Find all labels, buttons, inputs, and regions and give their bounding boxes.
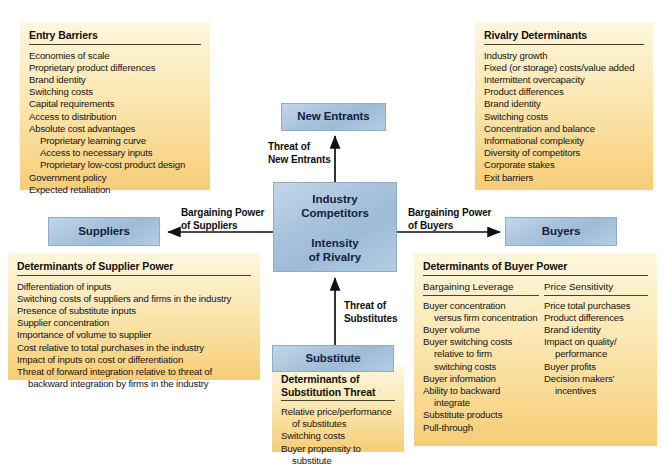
list-item: Substitute products	[423, 409, 544, 421]
panel-supplier-power: Determinants of Supplier Power Different…	[8, 253, 260, 380]
list-item: Brand identity	[29, 74, 201, 86]
force-box-new-entrants[interactable]: New Entrants	[281, 103, 386, 131]
list-item: Corporate stakes	[484, 159, 644, 171]
bargaining-buyers-line1: Bargaining Power	[408, 207, 491, 220]
list-item: Informational complexity	[484, 135, 644, 147]
force-box-suppliers[interactable]: Suppliers	[48, 217, 160, 246]
list-item: Government policy	[29, 172, 201, 184]
list-item: Proprietary low-cost product design	[29, 159, 201, 171]
force-box-industry-competitors[interactable]: Industry Competitors Intensity of Rivalr…	[273, 182, 397, 272]
list-item: Buyer profits	[544, 361, 648, 373]
threat-new-entrants-line2: New Entrants	[268, 154, 331, 167]
list-item: Supplier concentration	[17, 317, 251, 329]
list-item: Impact of inputs on cost or differentiat…	[17, 354, 251, 366]
label-bargaining-power-of-buyers: Bargaining Power of Buyers	[408, 207, 491, 232]
list-item: Product differences	[484, 86, 644, 98]
entry-barriers-title: Entry Barriers	[29, 29, 201, 42]
list-item: Importance of volume to supplier	[17, 329, 251, 341]
supplier-power-rule	[17, 275, 251, 276]
list-item: switching costs	[423, 361, 544, 373]
buyer-power-column-price-sensitivity: Price Sensitivity Price total purchases …	[544, 281, 648, 434]
label-threat-of-new-entrants: Threat of New Entrants	[268, 141, 331, 166]
panel-buyer-power: Determinants of Buyer Power Bargaining L…	[414, 253, 657, 446]
list-item: backward integration by firms in the ind…	[17, 378, 251, 390]
substitution-threat-title-line2: Substitution Threat	[281, 386, 395, 399]
list-item: substitute	[281, 455, 395, 467]
list-item: Fixed (or storage) costs/value added	[484, 62, 644, 74]
list-item: Brand identity	[484, 98, 644, 110]
list-item: Exit barriers	[484, 172, 644, 184]
list-item: Switching costs	[484, 111, 644, 123]
suppliers-label: Suppliers	[78, 225, 130, 239]
column-rule	[544, 295, 648, 296]
list-item: Intermittent overcapacity	[484, 74, 644, 86]
list-item: Decision makers'	[544, 373, 648, 385]
column-heading: Price Sensitivity	[544, 281, 648, 293]
list-item: Access to necessary inputs	[29, 147, 201, 159]
threat-substitutes-line2: Substitutes	[344, 313, 397, 326]
substitute-label: Substitute	[305, 352, 360, 366]
list-item: Pull-through	[423, 422, 544, 434]
list-item: Industry growth	[484, 50, 644, 62]
buyer-power-title: Determinants of Buyer Power	[423, 260, 648, 273]
list-item: Buyer concentration	[423, 300, 544, 312]
threat-substitutes-line1: Threat of	[344, 300, 397, 313]
bargaining-suppliers-line1: Bargaining Power	[181, 207, 264, 220]
list-item: Proprietary product differences	[29, 62, 201, 74]
rivalry-determinants-list: Industry growth Fixed (or storage) costs…	[484, 50, 644, 184]
list-item: Expected retaliation	[29, 184, 201, 196]
panel-substitution-threat: Determinants of Substitution Threat Rela…	[272, 366, 404, 452]
substitution-threat-list: Relative price/performance of substitute…	[281, 406, 395, 467]
list-item: Absolute cost advantages	[29, 123, 201, 135]
list-item: Diversity of competitors	[484, 147, 644, 159]
list-item: Buyer propensity to	[281, 443, 395, 455]
list-item: Economies of scale	[29, 50, 201, 62]
label-threat-of-substitutes: Threat of Substitutes	[344, 300, 397, 325]
rivalry-determinants-rule	[484, 44, 644, 45]
list-item: Capital requirements	[29, 98, 201, 110]
list-item: versus firm concentration	[423, 312, 544, 324]
list-item: of substitutes	[281, 418, 395, 430]
industry-competitors-line1: Industry	[274, 192, 396, 206]
list-item: Buyer switching costs	[423, 336, 544, 348]
list-item: Price total purchases	[544, 300, 648, 312]
list-item: Impact on quality/	[544, 336, 648, 348]
diagram-canvas: Entry Barriers Economies of scale Propri…	[0, 0, 663, 475]
bargaining-leverage-list: Buyer concentration versus firm concentr…	[423, 300, 544, 434]
list-item: incentives	[544, 385, 648, 397]
buyers-label: Buyers	[542, 225, 580, 239]
list-item: Concentration and balance	[484, 123, 644, 135]
force-box-buyers[interactable]: Buyers	[505, 217, 617, 246]
substitution-threat-rule	[281, 400, 395, 401]
list-item: Buyer information	[423, 373, 544, 385]
supplier-power-list: Differentiation of inputs Switching cost…	[17, 281, 251, 391]
list-item: Threat of forward integration relative t…	[17, 366, 251, 378]
entry-barriers-list: Economies of scale Proprietary product d…	[29, 50, 201, 196]
substitution-threat-title-line1: Determinants of	[281, 373, 395, 386]
list-item: Presence of substitute inputs	[17, 305, 251, 317]
industry-competitors-line2: Competitors	[274, 206, 396, 220]
list-item: Switching costs	[281, 430, 395, 442]
industry-competitors-label: Industry Competitors	[274, 192, 396, 220]
bargaining-suppliers-line2: of Suppliers	[181, 220, 264, 233]
list-item: Product differences	[544, 312, 648, 324]
list-item: Ability to backward	[423, 385, 544, 397]
new-entrants-label: New Entrants	[297, 110, 369, 124]
intensity-of-rivalry-line2: of Rivalry	[274, 250, 396, 264]
list-item: Buyer volume	[423, 324, 544, 336]
list-item: Switching costs of suppliers and firms i…	[17, 293, 251, 305]
column-rule	[423, 295, 539, 296]
buyer-power-rule	[423, 275, 648, 276]
entry-barriers-rule	[29, 44, 201, 45]
list-item: integrate	[423, 397, 544, 409]
list-item: Switching costs	[29, 86, 201, 98]
intensity-of-rivalry-label: Intensity of Rivalry	[274, 236, 396, 264]
column-heading: Bargaining Leverage	[423, 281, 544, 293]
list-item: Access to distribution	[29, 111, 201, 123]
threat-new-entrants-line1: Threat of	[268, 141, 331, 154]
force-box-substitute[interactable]: Substitute	[272, 345, 394, 372]
list-item: Differentiation of inputs	[17, 281, 251, 293]
rivalry-determinants-title: Rivalry Determinants	[484, 29, 644, 42]
list-item: relative to firm	[423, 348, 544, 360]
price-sensitivity-list: Price total purchases Product difference…	[544, 300, 648, 398]
